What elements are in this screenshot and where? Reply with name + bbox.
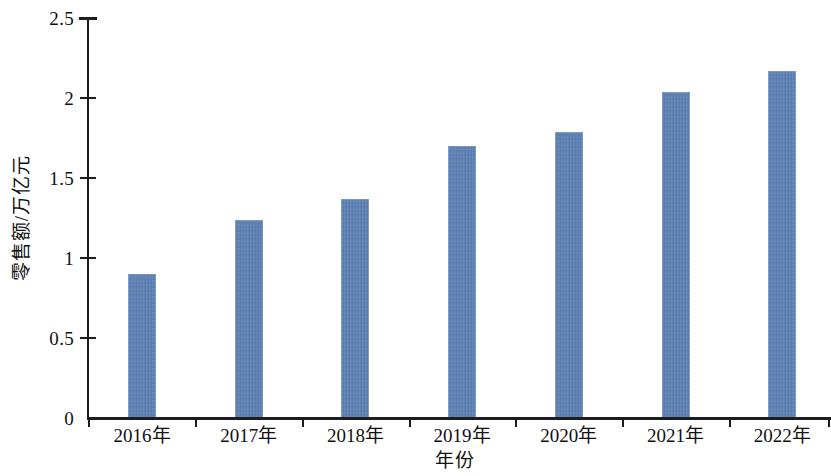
x-tick-label-2019: 2019年	[402, 424, 522, 448]
bar-2019	[448, 146, 476, 418]
x-tick-label-2018: 2018年	[295, 424, 415, 448]
y-axis-line	[87, 18, 89, 419]
bar-chart: 零售额/万亿元 2.5 2 1.5 1 0.5 0 2016年 2017年 2	[0, 0, 831, 476]
y-tick-group-1-5: 1.5	[0, 169, 74, 188]
y-tick-mark	[80, 257, 96, 259]
y-tick-mark	[79, 17, 97, 20]
y-tick-label: 0	[12, 409, 74, 428]
bar-2022	[768, 71, 796, 418]
y-tick-group-0: 0	[0, 409, 74, 428]
bar-2017	[235, 220, 263, 418]
x-tick-label-2017: 2017年	[189, 424, 309, 448]
y-tick-group-2: 2	[0, 89, 74, 108]
y-tick-group-0-5: 0.5	[0, 329, 74, 348]
y-tick-group-1: 1	[0, 249, 74, 268]
x-axis-line	[87, 417, 831, 420]
y-tick-label: 1.5	[12, 169, 74, 188]
y-tick-mark	[80, 97, 96, 99]
y-tick-label: 1	[12, 249, 74, 268]
bar-2016	[128, 274, 156, 418]
x-tick-label-2021: 2021年	[616, 424, 736, 448]
y-tick-group-2-5: 2.5	[0, 9, 74, 28]
bar-2020	[555, 132, 583, 418]
bar-2021	[662, 92, 690, 418]
x-axis-title: 年份	[395, 450, 515, 472]
y-tick-label: 2	[12, 89, 74, 108]
y-tick-mark	[80, 337, 96, 339]
y-tick-mark	[80, 177, 96, 179]
x-tick-label-2016: 2016年	[82, 424, 202, 448]
y-axis-title: 零售额/万亿元	[12, 118, 32, 318]
y-tick-label: 0.5	[12, 329, 74, 348]
y-tick-label: 2.5	[12, 9, 74, 28]
x-tick-label-2020: 2020年	[509, 424, 629, 448]
x-tick-label-2022: 2022年	[722, 424, 831, 448]
bar-2018	[341, 199, 369, 418]
